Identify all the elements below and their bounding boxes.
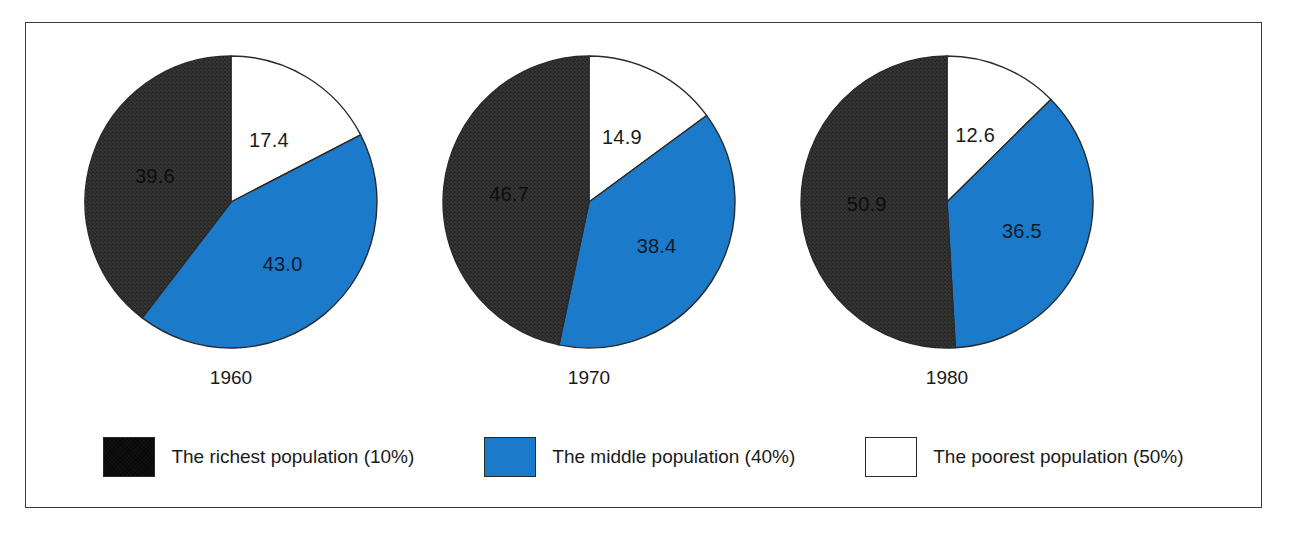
legend-item-1[interactable]: The middle population (40%) (484, 437, 795, 477)
pie-chart-1980: 12.636.550.91980 (741, 22, 1153, 412)
pie-chart-row: 17.443.039.6196014.938.446.7197012.636.5… (25, 22, 1262, 412)
pie-year-label-1960: 1960 (210, 367, 252, 389)
chart-legend: The richest population (10%)The middle p… (25, 428, 1262, 486)
pie-chart-1970: 14.938.446.71970 (383, 22, 795, 412)
pie-svg-1960 (81, 52, 381, 352)
pie-slice-richest-1970[interactable] (443, 56, 589, 345)
figure-root: 17.443.039.6196014.938.446.7197012.636.5… (0, 0, 1290, 535)
legend-item-0[interactable]: The richest population (10%) (103, 437, 414, 477)
pie-year-label-1980: 1980 (926, 367, 968, 389)
pie-svg-1980 (797, 52, 1097, 352)
pie-slice-richest-1980[interactable] (801, 56, 955, 348)
legend-swatch-middle (484, 437, 536, 477)
pie-year-label-1970: 1970 (568, 367, 610, 389)
pie-chart-1960: 17.443.039.61960 (25, 22, 437, 412)
legend-item-2[interactable]: The poorest population (50%) (865, 437, 1183, 477)
legend-label-0: The richest population (10%) (171, 446, 414, 468)
pie-svg-1970 (439, 52, 739, 352)
legend-label-1: The middle population (40%) (552, 446, 795, 468)
legend-swatch-richest (103, 437, 155, 477)
legend-swatch-poorest (865, 437, 917, 477)
legend-label-2: The poorest population (50%) (933, 446, 1183, 468)
